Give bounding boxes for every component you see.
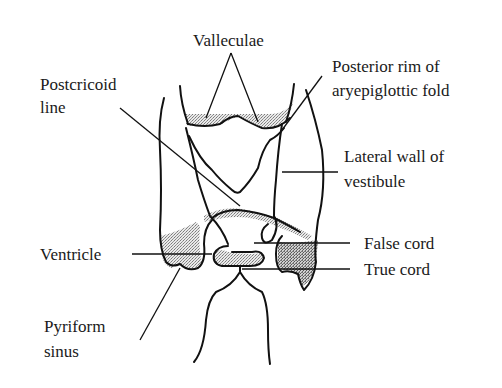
- label-ventricle: Ventricle: [40, 245, 101, 264]
- label-posterior-rim-2: aryepiglottic fold: [332, 81, 450, 100]
- label-postcricoid-2: line: [40, 98, 66, 117]
- label-true-cord: True cord: [364, 260, 430, 279]
- label-pyriform-1: Pyriform: [44, 317, 105, 336]
- larynx-diagram: Valleculae Postcricoid line Posterior ri…: [0, 0, 502, 388]
- trachea-outline: [194, 272, 240, 362]
- label-postcricoid-1: Postcricoid: [40, 75, 117, 94]
- label-lateral-wall-2: vestibule: [344, 172, 405, 191]
- label-pyriform-2: sinus: [44, 342, 79, 361]
- label-lateral-wall-1: Lateral wall of: [344, 147, 444, 166]
- label-posterior-rim-1: Posterior rim of: [332, 57, 440, 76]
- vallecula-shading: [186, 100, 294, 127]
- label-false-cord: False cord: [364, 234, 435, 253]
- label-valleculae: Valleculae: [193, 31, 264, 50]
- epiglottis-left-edge: [180, 86, 188, 124]
- inlet-outline: [189, 128, 284, 193]
- trachea-outline-right: [240, 272, 270, 364]
- valleculae-leader: [206, 53, 258, 122]
- pyriform-leader: [140, 268, 180, 340]
